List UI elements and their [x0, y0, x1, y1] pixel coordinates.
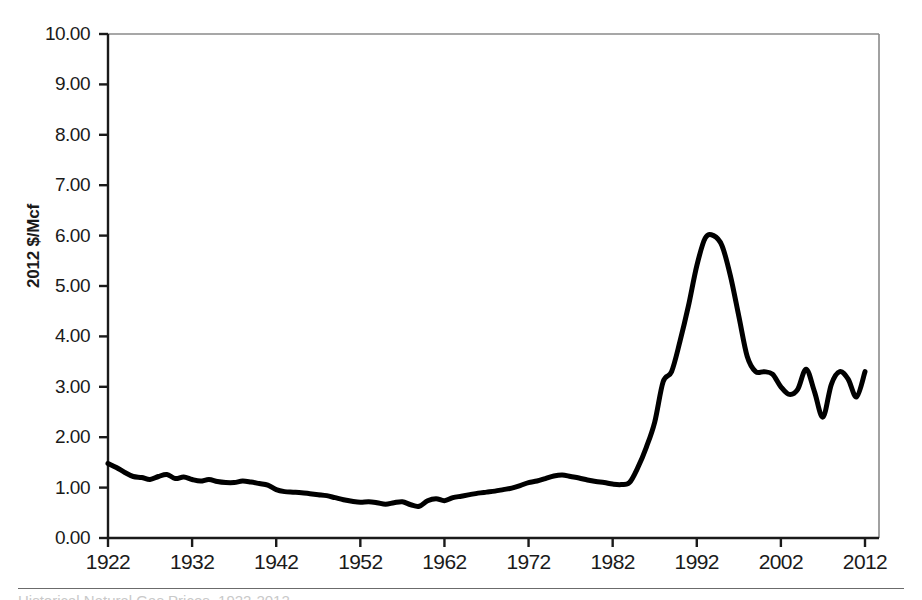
x-tick-label: 1982	[573, 550, 653, 574]
chart-figure: 2012 $/Mcf 0.001.002.003.004.005.006.007…	[0, 0, 922, 600]
caption-divider	[18, 588, 904, 589]
y-tick-label: 7.00	[28, 175, 90, 194]
x-tick-label: 2012	[825, 550, 905, 574]
y-tick-label: 6.00	[28, 226, 90, 245]
price-line-series	[108, 234, 865, 506]
y-tick-label: 0.00	[28, 528, 90, 547]
x-tick-label: 1942	[236, 550, 316, 574]
x-tick-label: 1962	[404, 550, 484, 574]
figure-caption: Historical Natural Gas Prices, 1922-2012	[18, 592, 904, 600]
plot-frame	[108, 34, 879, 538]
x-axis-ticks	[108, 538, 865, 547]
x-tick-label: 1922	[68, 550, 148, 574]
y-tick-label: 10.00	[28, 24, 90, 43]
x-tick-label: 1992	[657, 550, 737, 574]
y-tick-label: 2.00	[28, 427, 90, 446]
y-tick-label: 1.00	[28, 478, 90, 497]
y-tick-label: 4.00	[28, 326, 90, 345]
y-axis-title: 2012 $/Mcf	[24, 176, 44, 316]
plot-area	[0, 0, 922, 600]
y-tick-label: 8.00	[28, 125, 90, 144]
x-tick-label: 1952	[320, 550, 400, 574]
x-tick-label: 2002	[741, 550, 821, 574]
y-tick-label: 9.00	[28, 74, 90, 93]
y-tick-label: 5.00	[28, 276, 90, 295]
x-tick-label: 1972	[489, 550, 569, 574]
x-tick-label: 1932	[152, 550, 232, 574]
y-tick-label: 3.00	[28, 377, 90, 396]
